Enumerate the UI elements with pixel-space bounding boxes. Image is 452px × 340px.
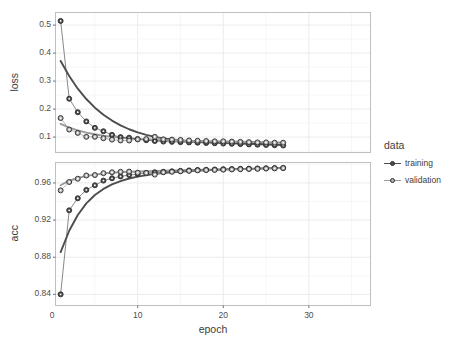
legend-key-training-icon [384,158,401,170]
legend-label-validation: validation [405,176,441,185]
legend-label-training: training [405,159,433,168]
x-axis-title: epoch [153,324,273,335]
y-tick-label-acc-0-84: 0.84 [24,289,51,298]
legend-title: data [384,140,450,151]
chart-root: 0.5 0.4 0.3 0.2 0.1 0.96 0.92 0.88 0.84 … [0,0,452,340]
y-axis-title-acc: acc [9,203,20,263]
x-tick-label-20: 20 [208,311,238,320]
x-tick-label-0: 0 [37,311,67,320]
y-tick-label-acc-0-92: 0.92 [24,215,51,224]
y-tick-label-acc-0-96: 0.96 [24,178,51,187]
y-axis-title-loss: loss [9,52,20,112]
y-tick-label-loss-0-4: 0.4 [24,48,51,57]
x-tick-label-10: 10 [123,311,153,320]
y-tick-label-loss-0-3: 0.3 [24,76,51,85]
legend: data training validation [384,140,450,191]
y-tick-label-acc-0-88: 0.88 [24,252,51,261]
y-tick-label-loss-0-1: 0.1 [24,132,51,141]
legend-key-validation-icon [384,175,401,187]
x-tick-label-30: 30 [294,311,324,320]
y-tick-label-loss-0-5: 0.5 [24,20,51,29]
legend-item-validation[interactable]: validation [384,174,450,188]
y-tick-label-loss-0-2: 0.2 [24,104,51,113]
legend-item-training[interactable]: training [384,157,450,171]
